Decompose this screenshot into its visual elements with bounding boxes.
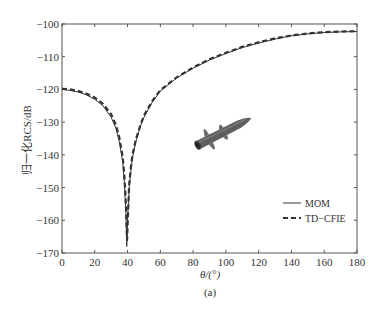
x-axis-title: θ/(°) (200, 268, 221, 281)
x-tick-label: 0 (59, 256, 65, 268)
x-tick-label: 60 (155, 256, 167, 268)
rcs-line-chart: 020406080100120140160180−100−110−120−130… (0, 0, 386, 315)
figure-caption: (a) (204, 286, 217, 299)
y-tick-label: −130 (36, 116, 59, 128)
y-tick-label: −160 (36, 214, 59, 226)
y-tick-label: −140 (36, 149, 59, 161)
y-tick-label: −110 (37, 51, 60, 63)
x-tick-label: 20 (89, 256, 101, 268)
y-tick-label: −170 (36, 247, 59, 259)
x-tick-label: 140 (283, 256, 300, 268)
x-tick-label: 180 (349, 256, 366, 268)
x-tick-label: 80 (188, 256, 200, 268)
x-tick-label: 120 (250, 256, 267, 268)
y-axis-title: 归一化RCS/dB (20, 105, 33, 175)
legend-label-mom: MOM (305, 198, 330, 209)
y-tick-label: −100 (36, 18, 59, 30)
y-tick-label: −150 (36, 182, 59, 194)
x-tick-label: 40 (122, 256, 134, 268)
legend-label-tdcfie: TD−CFIE (305, 213, 346, 224)
x-tick-label: 100 (218, 256, 235, 268)
legend: MOM TD−CFIE (283, 198, 346, 224)
missile-icon (190, 108, 256, 156)
y-tick-label: −120 (36, 83, 59, 95)
x-tick-label: 160 (316, 256, 333, 268)
